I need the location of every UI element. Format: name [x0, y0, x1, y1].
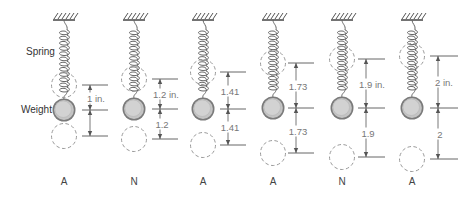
arrow-down-icon: [294, 148, 298, 153]
spring-figure-5: [330, 13, 386, 170]
ceiling-hatch-icon: [402, 13, 426, 19]
upper-dimension-label: 1 in.: [86, 92, 106, 103]
arrow-down-icon: [294, 103, 298, 108]
spring-oscillation-diagram: Spring Weight 1 in.A1.2 in.1.2N1.411.41A…: [0, 0, 476, 200]
spring-coil: [269, 20, 279, 98]
spring-coil: [199, 20, 209, 99]
dimension-markers: [220, 72, 246, 145]
classification-label: A: [200, 176, 207, 187]
arrow-up-icon: [226, 72, 230, 77]
lower-position-circle: [191, 133, 216, 158]
dimension-markers: [430, 56, 458, 159]
ceiling-hatch-icon: [193, 13, 217, 19]
classification-label: A: [409, 176, 416, 187]
arrow-down-icon: [226, 140, 230, 145]
arrow-up-icon: [226, 109, 230, 114]
ceiling-hatch-icon: [263, 13, 287, 19]
upper-position-circle: [330, 47, 355, 72]
upper-dimension-label: 1.9 in.: [358, 78, 386, 89]
lower-position-circle: [122, 127, 147, 152]
lower-dimension-label: 1.41: [220, 122, 241, 133]
arrow-up-icon: [294, 63, 298, 68]
upper-dimension-label: 2 in.: [434, 77, 454, 88]
dimension-markers: [288, 63, 314, 153]
arrow-down-icon: [88, 105, 92, 110]
upper-dimension-label: 1.73: [288, 80, 309, 91]
arrow-down-icon: [436, 154, 440, 159]
arrow-down-icon: [88, 131, 92, 136]
lower-dimension-label: 1.2: [154, 119, 169, 130]
arrow-up-icon: [364, 59, 368, 64]
arrow-down-icon: [436, 103, 440, 108]
arrow-up-icon: [158, 79, 162, 84]
classification-label: N: [130, 176, 137, 187]
weight-label: Weight: [21, 104, 52, 115]
lower-position-circle: [400, 147, 425, 172]
lower-dimension-label: 1.9: [360, 127, 375, 138]
arrow-down-icon: [158, 134, 162, 139]
arrow-down-icon: [364, 152, 368, 157]
spring-coil: [338, 20, 348, 98]
classification-label: A: [61, 176, 68, 187]
dimension-markers: [358, 59, 385, 157]
diagram-drawing: [0, 0, 476, 200]
spring-figure-2: [122, 13, 179, 152]
ceiling-hatch-icon: [332, 13, 356, 19]
classification-label: A: [270, 176, 277, 187]
lower-dimension-label: 2: [436, 128, 443, 139]
lower-position-circle: [52, 124, 77, 149]
lower-dimension-label: 1.73: [288, 125, 309, 136]
classification-label: N: [338, 176, 345, 187]
spring-coil: [60, 20, 70, 100]
spring-figure-1: [52, 13, 109, 149]
arrow-up-icon: [436, 108, 440, 113]
arrow-up-icon: [88, 85, 92, 90]
spring-label: Spring: [26, 46, 55, 57]
ceiling-hatch-icon: [54, 13, 78, 19]
ceiling-hatch-icon: [124, 13, 148, 19]
arrow-up-icon: [88, 110, 92, 115]
arrow-down-icon: [158, 104, 162, 109]
upper-dimension-label: 1.41: [220, 85, 241, 96]
spring-figure-6: [400, 13, 459, 172]
lower-position-circle: [261, 141, 286, 166]
arrow-up-icon: [436, 56, 440, 61]
arrow-up-icon: [364, 108, 368, 113]
arrow-up-icon: [158, 109, 162, 114]
spring-coil: [408, 20, 418, 98]
arrow-down-icon: [364, 103, 368, 108]
upper-dimension-label: 1.2 in.: [152, 89, 180, 100]
arrow-up-icon: [294, 108, 298, 113]
spring-coil: [130, 20, 140, 99]
lower-position-circle: [330, 145, 355, 170]
arrow-down-icon: [226, 104, 230, 109]
